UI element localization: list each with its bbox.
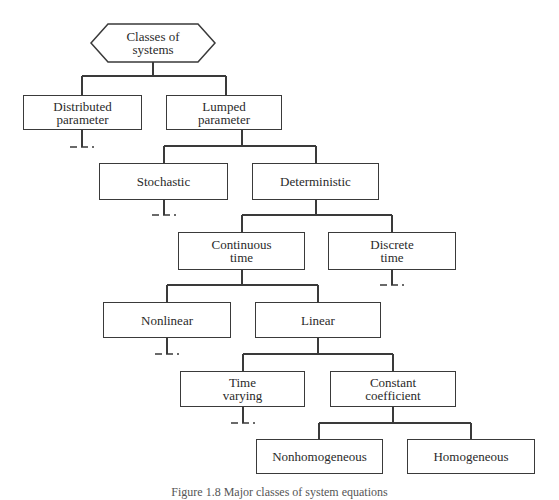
node-distributed-parameter: Distributed parameter bbox=[23, 95, 142, 130]
node-label: Linear bbox=[301, 314, 335, 327]
node-discrete-time: Discrete time bbox=[328, 232, 456, 270]
node-nonhomogeneous: Nonhomogeneous bbox=[256, 439, 383, 474]
node-lumped-parameter: Lumped parameter bbox=[166, 95, 282, 130]
node-continuous-time: Continuous time bbox=[178, 232, 305, 270]
root-node-label: Classes of systems bbox=[91, 24, 215, 62]
node-deterministic: Deterministic bbox=[252, 163, 379, 200]
node-homogeneous: Homogeneous bbox=[407, 439, 535, 474]
node-label: Homogeneous bbox=[433, 450, 508, 463]
node-time-varying: Time varying bbox=[180, 371, 305, 407]
node-label: Continuous time bbox=[212, 238, 272, 264]
node-label: Deterministic bbox=[280, 175, 351, 188]
node-linear: Linear bbox=[255, 302, 381, 338]
node-label: Time varying bbox=[223, 376, 263, 402]
node-label: Constant coefficient bbox=[365, 376, 420, 402]
node-label: Distributed parameter bbox=[53, 100, 112, 126]
node-label: Lumped parameter bbox=[198, 100, 250, 126]
node-label: Discrete time bbox=[370, 238, 413, 264]
figure-caption: Figure 1.8 Major classes of system equat… bbox=[0, 485, 559, 500]
node-stochastic: Stochastic bbox=[99, 163, 228, 200]
node-nonlinear: Nonlinear bbox=[103, 302, 231, 338]
node-label: Stochastic bbox=[137, 175, 190, 188]
node-label: Nonlinear bbox=[141, 314, 193, 327]
node-constant-coefficient: Constant coefficient bbox=[330, 371, 456, 407]
node-label: Nonhomogeneous bbox=[272, 450, 367, 463]
